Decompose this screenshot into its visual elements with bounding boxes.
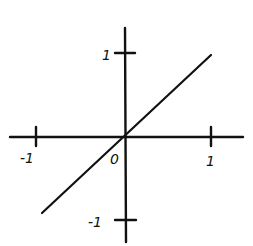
x-tick-label-neg-one: -1 (20, 150, 34, 166)
y-tick-label-neg-one: -1 (88, 214, 102, 230)
origin-label: 0 (110, 151, 119, 167)
line-graph: 1 -1 -1 1 0 (0, 0, 253, 246)
y-tick-label-pos-one: 1 (102, 47, 111, 63)
x-tick-label-pos-one: 1 (206, 153, 215, 169)
